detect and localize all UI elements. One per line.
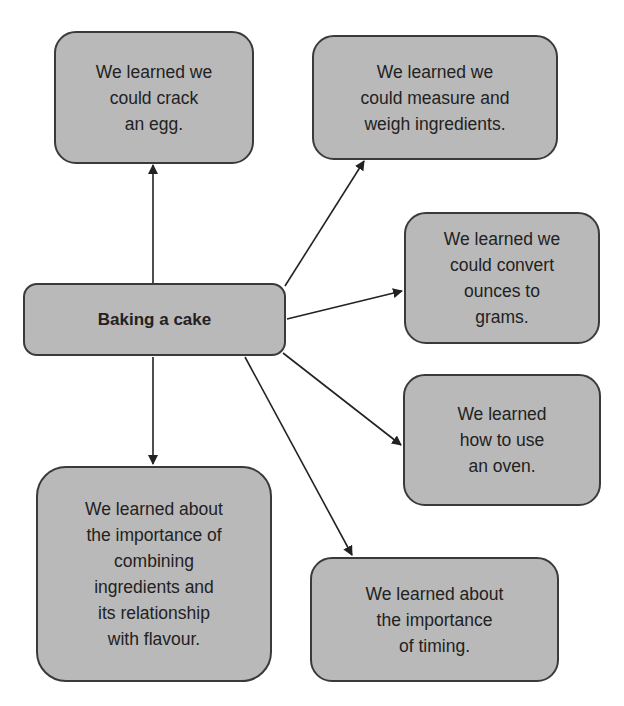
node-label: We learned about the importance of timin… <box>366 581 504 659</box>
edge-center-oven <box>283 353 401 445</box>
node-crack-egg: We learned we could crack an egg. <box>54 31 254 164</box>
edge-center-convert <box>287 291 402 319</box>
edge-center-measure <box>285 161 364 286</box>
node-label: We learned we could crack an egg. <box>96 59 212 137</box>
node-label: We learned we could convert ounces to gr… <box>444 226 560 330</box>
node-label: We learned we could measure and weigh in… <box>361 59 510 137</box>
node-measure-weigh: We learned we could measure and weigh in… <box>312 35 558 160</box>
node-combining-ingredients: We learned about the importance of combi… <box>36 466 272 682</box>
node-convert-ounces: We learned we could convert ounces to gr… <box>404 212 600 344</box>
node-label: We learned about the importance of combi… <box>85 496 223 652</box>
center-label: Baking a cake <box>98 307 211 333</box>
node-timing: We learned about the importance of timin… <box>310 557 559 682</box>
node-center-baking-cake: Baking a cake <box>23 283 286 356</box>
node-label: We learned how to use an oven. <box>457 401 546 479</box>
node-use-oven: We learned how to use an oven. <box>403 374 601 506</box>
